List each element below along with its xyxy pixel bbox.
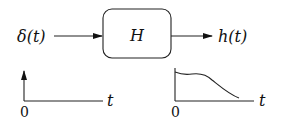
time-axis-label: t [107,91,114,110]
origin-label: 0 [20,104,29,120]
impulse-response-plot: t 0 [171,68,266,120]
input-signal-label: δ(t) [17,27,46,46]
input-impulse-plot: t 0 [20,71,114,120]
time-axis-label: t [259,91,266,110]
output-signal-label: h(t) [218,27,247,46]
system-label: H [129,26,145,45]
response-curve [175,72,239,98]
lti-impulse-response-diagram: δ(t) H h(t) t 0 t 0 [0,0,282,136]
origin-label: 0 [171,104,180,120]
